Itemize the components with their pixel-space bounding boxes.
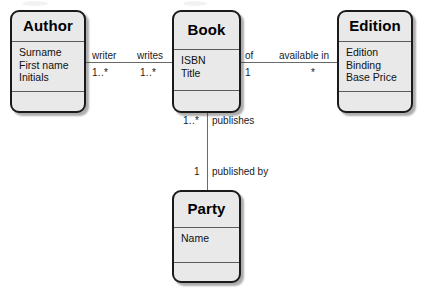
class-name-author: Author: [12, 12, 84, 42]
operation-compartment-edition: [339, 92, 411, 111]
attribute-item: Base Price: [346, 71, 411, 84]
attribute-item: Name: [181, 232, 239, 245]
attribute-compartment-edition: Edition Binding Base Price: [339, 42, 411, 92]
class-box-book[interactable]: Book ISBN Title: [172, 10, 241, 113]
class-name-book: Book: [174, 12, 239, 50]
attribute-item: Edition: [346, 46, 411, 59]
operation-compartment-author: [12, 92, 84, 111]
role-label-writes: writes: [137, 50, 163, 61]
attribute-item: Binding: [346, 59, 411, 72]
class-name-edition: Edition: [339, 12, 411, 42]
association-line-author-book: [86, 62, 173, 63]
attribute-compartment-book: ISBN Title: [174, 50, 239, 91]
class-name-party: Party: [174, 192, 239, 228]
attribute-item: ISBN: [181, 54, 239, 67]
multiplicity-label-book-author: 1..*: [140, 67, 156, 78]
role-label-publishes: publishes: [212, 115, 254, 126]
scan-artifact: [22, 1, 48, 6]
attribute-item: Initials: [19, 71, 84, 84]
association-line-book-edition: [240, 62, 338, 63]
scan-artifact: [183, 1, 207, 6]
attribute-compartment-party: Name: [174, 228, 239, 263]
multiplicity-label-book-party: 1..*: [183, 115, 199, 126]
class-box-party[interactable]: Party Name: [172, 190, 241, 283]
role-label-available-in: available in: [279, 50, 329, 61]
association-line-book-party: [207, 113, 208, 191]
multiplicity-label-edition: *: [311, 67, 315, 78]
role-label-writer: writer: [92, 50, 116, 61]
multiplicity-label-author: 1..*: [92, 67, 108, 78]
multiplicity-label-party: 1: [194, 166, 200, 177]
operation-compartment-party: [174, 263, 239, 281]
attribute-item: Surname: [19, 46, 84, 59]
multiplicity-label-book-edition: 1: [245, 67, 251, 78]
operation-compartment-book: [174, 91, 239, 111]
class-box-edition[interactable]: Edition Edition Binding Base Price: [337, 10, 413, 113]
class-box-author[interactable]: Author Surname First name Initials: [10, 10, 86, 113]
uml-class-diagram-canvas: Author Surname First name Initials Book …: [0, 0, 425, 292]
attribute-item: Title: [181, 67, 239, 80]
role-label-of: of: [245, 50, 253, 61]
attribute-compartment-author: Surname First name Initials: [12, 42, 84, 92]
role-label-published-by: published by: [212, 166, 268, 177]
attribute-item: First name: [19, 59, 84, 72]
